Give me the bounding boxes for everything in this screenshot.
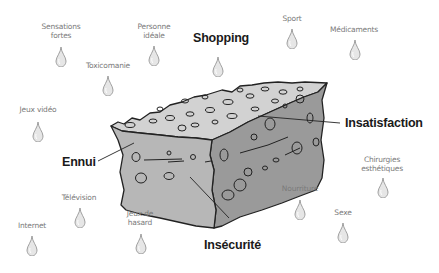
label-sport: Sport (282, 14, 301, 23)
label-internet: Internet (18, 221, 46, 230)
drop-icon-jeux-de-hasard (135, 234, 147, 254)
drop-icon-jeux-video (32, 122, 44, 142)
drop-icon-internet (26, 236, 38, 256)
drop-icon-sexe (337, 223, 349, 243)
drop-icon-medicaments (349, 40, 361, 60)
label-shopping: Shopping (193, 31, 249, 45)
label-chirurgies-esthetiques: Chirurgiesesthétiques (361, 155, 403, 173)
drop-icon-shopping (212, 57, 224, 77)
label-television: Télévision (62, 193, 96, 202)
drop-icon-television (74, 208, 86, 228)
drop-icon-sport (286, 29, 298, 49)
label-insecurite: Insécurité (204, 238, 261, 252)
drop-icon-chirurgies-esthetiques (377, 178, 389, 198)
label-personne-ideale: Personneidéale (138, 22, 171, 40)
label-nourriture: Nourriture (282, 184, 318, 193)
label-insatisfaction: Insatisfaction (345, 116, 423, 130)
drop-icon-sensations-fortes (55, 47, 67, 67)
label-sensations-fortes: Sensationsfortes (42, 22, 81, 40)
label-ennui: Ennui (62, 155, 96, 169)
label-jeux-video: Jeux vidéo (20, 105, 57, 114)
label-medicaments: Médicaments (330, 25, 378, 34)
label-toxicomanie: Toxicomanie (86, 61, 130, 70)
label-sexe: Sexe (334, 208, 351, 217)
drop-icon-personne-ideale (148, 46, 160, 66)
drop-icon-toxicomanie (102, 76, 114, 96)
drop-icon-nourriture (294, 200, 306, 220)
label-jeux-de-hasard: Jeux dehasard (127, 209, 153, 227)
